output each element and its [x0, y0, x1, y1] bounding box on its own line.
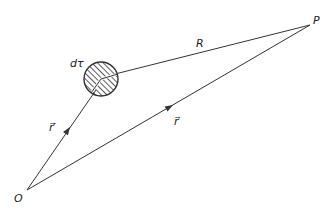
point-p-label: P [313, 14, 320, 27]
vector-r-prime-label: r⃗′ [49, 121, 57, 134]
volume-element-label: dτ [70, 57, 84, 70]
volume-element [84, 62, 118, 96]
diagram-canvas: O P R dτ r⃗′ r⃗ [0, 0, 335, 217]
origin-label: O [14, 192, 23, 205]
vector-r-arrowhead-icon [165, 102, 175, 111]
separation-label: R [196, 37, 204, 50]
separation-R-line [115, 25, 310, 74]
vector-r-label: r⃗ [174, 115, 180, 128]
vector-r-prime-line [27, 90, 96, 190]
